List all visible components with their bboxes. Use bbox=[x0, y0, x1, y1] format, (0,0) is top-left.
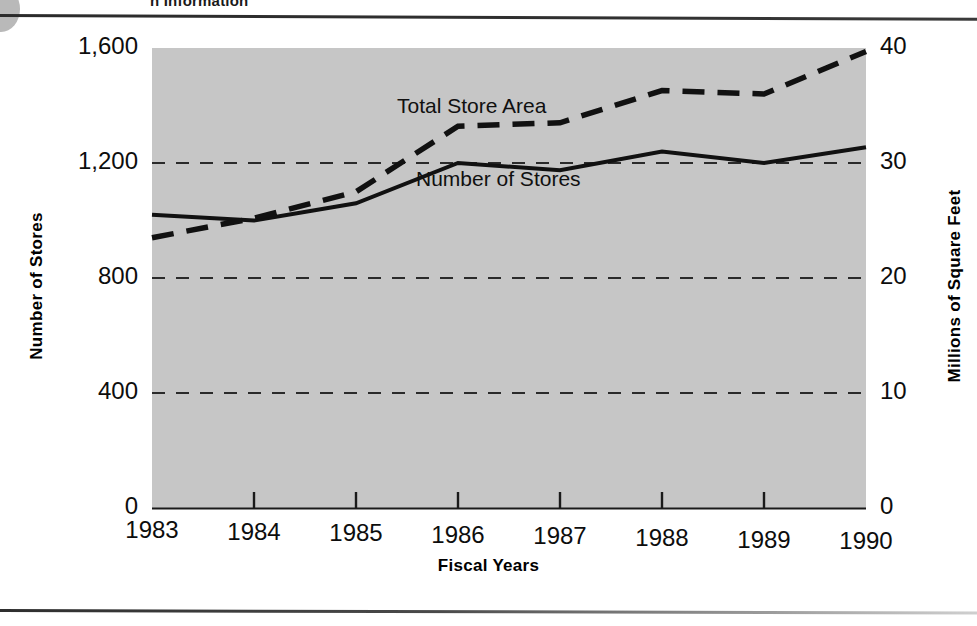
y-axis-right-tick-label: 30 bbox=[880, 147, 940, 175]
x-axis-tick-label: 1987 bbox=[505, 522, 615, 550]
y-axis-right-tick-label: 20 bbox=[880, 262, 940, 290]
x-axis-tick-label: 1988 bbox=[607, 524, 717, 552]
y-axis-right-tick-label: 0 bbox=[880, 492, 940, 520]
y-axis-left-tick-label: 400 bbox=[0, 377, 138, 405]
y-axis-right-tick-label: 10 bbox=[880, 377, 940, 405]
y-axis-right-title: Millions of Square Feet bbox=[945, 171, 965, 401]
y-axis-left-tick-label: 800 bbox=[0, 262, 138, 290]
x-axis-title: Fiscal Years bbox=[0, 556, 977, 576]
x-axis-tick-label: 1989 bbox=[709, 526, 819, 554]
x-axis-tick-label: 1983 bbox=[97, 516, 207, 544]
x-axis-tick-label: 1986 bbox=[403, 521, 513, 549]
x-axis-tick-label: 1984 bbox=[199, 518, 309, 546]
y-axis-left-tick-label: 1,600 bbox=[0, 32, 138, 60]
x-tick-marks-group bbox=[254, 492, 764, 508]
annotation-total-store-area: Total Store Area bbox=[397, 94, 546, 118]
annotation-number-of-stores: Number of Stores bbox=[416, 167, 581, 191]
figure-container: n Information Total Store Area Number of… bbox=[0, 0, 977, 626]
x-axis-tick-label: 1990 bbox=[811, 527, 921, 555]
y-axis-left-title: Number of Stores bbox=[27, 186, 47, 386]
series-lines-group bbox=[152, 51, 866, 237]
series-line-total-store-area bbox=[152, 51, 866, 237]
gridlines-group bbox=[152, 163, 866, 393]
y-axis-right-tick-label: 40 bbox=[880, 32, 940, 60]
x-axis-tick-label: 1985 bbox=[301, 519, 411, 547]
y-axis-left-tick-label: 1,200 bbox=[0, 147, 138, 175]
